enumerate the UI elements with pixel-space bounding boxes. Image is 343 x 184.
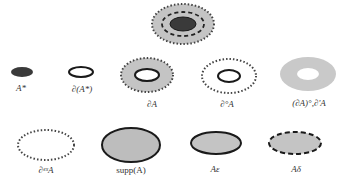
supp-a-figure bbox=[102, 128, 160, 162]
label-boundary-ex-a: ∂ᵉˣA bbox=[39, 165, 54, 175]
label-a-epsilon: Aε bbox=[210, 164, 219, 174]
label-boundary-a-star: ∂(A*) bbox=[72, 84, 92, 94]
label-boundary-a: ∂A bbox=[147, 99, 157, 109]
label-a-delta: Aδ bbox=[291, 164, 301, 174]
a-delta-figure bbox=[269, 132, 321, 154]
boundary-a-figure bbox=[121, 58, 173, 92]
label-boundary-interior: (∂A)°,∂'A bbox=[292, 98, 326, 108]
boundary-a-star-figure bbox=[69, 67, 93, 77]
top-composite-figure bbox=[152, 4, 214, 44]
a-star-figure bbox=[11, 67, 33, 77]
label-a-star: A* bbox=[16, 83, 26, 93]
label-supp-a: supp(A) bbox=[116, 165, 146, 175]
a-epsilon-figure bbox=[191, 132, 241, 154]
diagram-canvas bbox=[0, 0, 343, 184]
boundary-ex-a-figure bbox=[18, 130, 74, 160]
label-boundary-o-a: ∂°A bbox=[220, 99, 234, 109]
boundary-o-a-figure bbox=[202, 59, 256, 93]
boundary-interior-figure bbox=[280, 57, 336, 91]
